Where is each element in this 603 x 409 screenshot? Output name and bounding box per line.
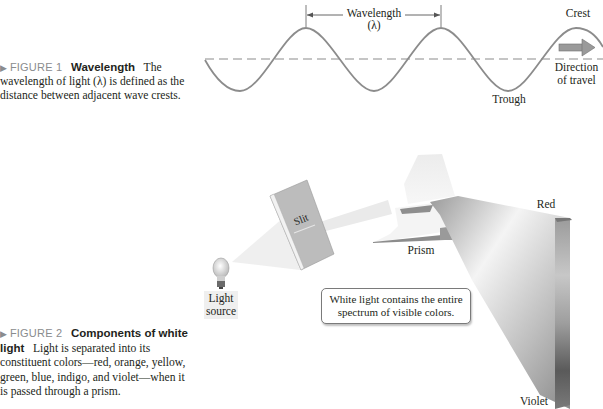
red-label: Red: [531, 198, 561, 211]
light-source-label-line1: Light: [203, 292, 239, 305]
light-beam: [320, 200, 392, 232]
light-bulb-icon: [213, 258, 229, 289]
direction-arrow-icon: [559, 39, 595, 56]
callout-line1: White light contains the entire: [322, 293, 470, 306]
crest-label: Crest: [560, 7, 596, 20]
prism-label: Prism: [401, 244, 441, 257]
spectrum-screen: [555, 218, 570, 409]
light-source-label-line2: source: [203, 305, 239, 318]
direction-label-line2: of travel: [550, 74, 603, 87]
figures-canvas: [0, 0, 603, 409]
direction-label-line1: Direction: [550, 61, 603, 74]
prism-top: [404, 154, 455, 204]
prism-diagram: [204, 154, 572, 409]
trough-label: Trough: [489, 93, 529, 106]
arrowhead-right-icon: [434, 13, 440, 18]
callout-box: White light contains the entire spectrum…: [321, 288, 471, 324]
violet-label: Violet: [514, 395, 554, 408]
callout-line2: spectrum of visible colors.: [322, 306, 470, 319]
arrowhead-left-icon: [307, 13, 313, 18]
lambda-symbol: (λ): [360, 19, 388, 32]
